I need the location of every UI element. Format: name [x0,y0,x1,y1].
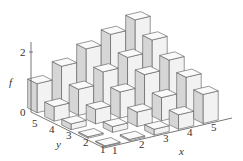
x-tick-label-5: 5 [211,121,217,133]
bar-side-face [28,79,37,113]
bar-side-face [194,90,203,124]
z-tick-label-2: 2 [20,46,26,58]
y-tick-label-5: 5 [32,117,38,129]
x-tick-label-1: 1 [112,144,118,156]
bar-chart-3d: 2 0 f 5 4 3 2 1 y 1 2 3 4 5 x [0,0,243,161]
bar-front-face [203,91,218,124]
y-tick-label-3: 3 [66,129,72,141]
bar-side-face [69,85,78,116]
y-tick-label-4: 4 [49,123,55,135]
y-tick-label-1: 1 [100,143,106,155]
y-axis-label: y [55,138,61,150]
x-tick-label-4: 4 [187,126,193,138]
y-tick-label-2: 2 [83,136,89,148]
z-tick-label-0: 0 [20,106,26,118]
x-tick-label-2: 2 [139,138,145,150]
x-tick-label-3: 3 [163,132,169,144]
bar-side-face [111,87,120,118]
z-axis-label: f [9,76,14,88]
x-axis-label: x [178,145,184,157]
